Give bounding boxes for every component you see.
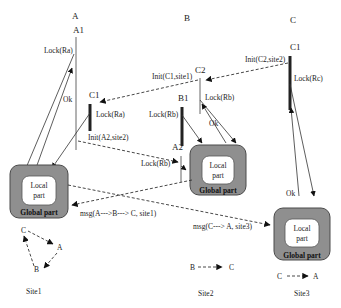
site1-global-label: Global part: [20, 208, 58, 217]
site3-node: Local part Global part: [274, 208, 330, 260]
site2-node: Local part Global part: [190, 145, 246, 195]
init-c2-site2-arrow: [206, 63, 288, 80]
site1-node: Local part Global part: [10, 165, 68, 218]
site3-global-label: Global part: [283, 251, 321, 260]
msg-site1-label: msg(A--->B---> C, site1): [80, 209, 157, 218]
wfg2-node-b: B: [190, 263, 195, 272]
site2-local-label-1: Local: [209, 161, 226, 170]
site3-label: Site3: [294, 289, 310, 298]
lock-rb-b1-arrow: [182, 115, 202, 143]
wfg3-node-c: C: [277, 272, 282, 281]
wfg1-edge-b-c: [24, 236, 34, 266]
site1-label: Site1: [26, 287, 42, 296]
subtransaction-a1-label: A1: [73, 25, 84, 35]
site2-local-label-2: part: [212, 171, 225, 180]
wfg1-edge-c-a: [28, 231, 53, 244]
subtransaction-c1-site3-label: C1: [290, 42, 301, 52]
lock-rb-b1-label: Lock(Rb): [149, 110, 179, 119]
subtransaction-c2-label: C2: [195, 65, 206, 75]
site3-wait-for-graph: C A: [277, 272, 319, 281]
deadlock-detection-diagram: A B C A1 Lock(Ra) Ok C1 Lock(Ra) Init(A2…: [0, 0, 341, 308]
wfg1-node-a: A: [57, 243, 63, 252]
site2-label: Site2: [198, 289, 214, 298]
transaction-a-label: A: [72, 11, 79, 21]
transaction-c-label: C: [290, 15, 296, 25]
ok-a1-arrow: [36, 68, 72, 168]
init-c1-site1-label: Init(C1,site1): [152, 72, 193, 81]
ok-c-label: Ok: [286, 189, 295, 198]
subtransaction-b1-label: B1: [178, 93, 189, 103]
site3-local-label-1: Local: [293, 224, 310, 233]
site3-local-label-2: part: [296, 234, 309, 243]
site1-local-label-2: part: [33, 191, 46, 200]
wfg3-node-a: A: [313, 272, 319, 281]
lock-ra-c1-arrow: [52, 113, 90, 168]
subtransaction-c1-site1-label: C1: [89, 90, 100, 100]
init-c2-site2-label: Init(C2,site2): [245, 55, 286, 64]
lock-rb-c2-label: Lock(Rb): [205, 93, 235, 102]
site2-wait-for-graph: B C: [190, 263, 234, 272]
wfg2-node-c: C: [229, 263, 234, 272]
wfg1-node-c: C: [21, 226, 26, 235]
lock-rb-a2-arrow: [181, 166, 186, 170]
ok-a1-label: Ok: [63, 95, 72, 104]
lock-rc-label: Lock(Rc): [294, 74, 323, 83]
msg-site1-arrow: [72, 180, 192, 205]
subtransaction-a2-label: A2: [172, 142, 183, 152]
lock-rb-a2-label: Lock(Rb): [141, 159, 171, 168]
msg-site3-label: msg(C---> A, site3): [193, 222, 253, 231]
site2-global-label: Global part: [199, 186, 237, 195]
lock-ra-arrow-line: [26, 54, 74, 168]
wfg1-edge-a-b: [44, 253, 57, 268]
lock-ra-a1-label: Lock(Ra): [44, 46, 73, 55]
transaction-b-label: B: [184, 13, 190, 23]
init-a2-site2-label: Init(A2,site2): [88, 133, 129, 142]
ok-b-label: Ok: [209, 119, 218, 128]
lock-ra-c1-label: Lock(Ra): [96, 110, 125, 119]
site1-wait-for-graph: C A B: [21, 226, 63, 274]
wfg1-node-b: B: [34, 265, 39, 274]
site1-local-label-1: Local: [30, 181, 47, 190]
